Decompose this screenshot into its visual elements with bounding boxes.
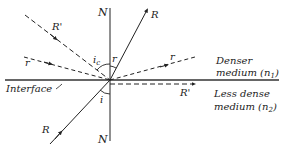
refraction-angle-arc: [110, 66, 116, 68]
interface-pointer: [56, 84, 62, 89]
refraction-diagram: N N R R R' R' r r ic r i Interface Dense…: [0, 0, 283, 146]
small-refracted-label: r: [170, 51, 176, 62]
refracted-ray-label: R: [150, 9, 159, 20]
small-incident-label: r: [25, 57, 31, 68]
less-dense-medium-label-2: medium (n2): [214, 101, 277, 114]
critical-incident-label: R': [51, 21, 62, 32]
normal-top-label: N: [97, 6, 108, 19]
refracted-ray-R: [110, 10, 147, 80]
refraction-angle-label: r: [112, 53, 118, 64]
small-refracted-ray: [110, 57, 195, 80]
interface-label: Interface: [5, 83, 52, 94]
incidence-angle-label: i: [100, 94, 103, 105]
normal-bottom-label: N: [97, 133, 108, 146]
incident-ray-label: R: [41, 124, 50, 135]
critical-incident-ray: [25, 15, 110, 80]
less-dense-medium-label-1: Less dense: [213, 88, 270, 99]
critical-grazing-label: R': [179, 87, 190, 98]
critical-angle-label: ic: [93, 54, 100, 67]
denser-medium-label-2: medium (n1): [216, 67, 279, 80]
critical-incident-arrow: [50, 34, 56, 39]
incident-ray-arrow: [55, 132, 61, 139]
denser-medium-label-1: Denser: [215, 55, 253, 66]
